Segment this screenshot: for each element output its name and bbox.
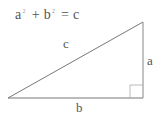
hypotenuse-label: c [63, 36, 69, 52]
right-angle-marker [130, 85, 143, 98]
base-side-label: b [76, 100, 83, 116]
hypotenuse-line [8, 22, 143, 98]
vertical-side-label: a [147, 53, 153, 69]
